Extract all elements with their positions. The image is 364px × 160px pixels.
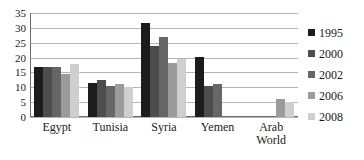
- bar-group-egypt: [30, 13, 84, 117]
- bar-2006-egypt: [61, 74, 70, 117]
- bar-2006-tunisia: [115, 84, 124, 117]
- x-tick-label-yemen: Yemen: [191, 121, 245, 147]
- bar-chart: 35302520151050 EgyptTunisiaSyriaYemenAra…: [0, 0, 364, 160]
- y-tick-label-0: 0: [0, 112, 26, 123]
- x-tick-label-line: Yemen: [191, 121, 245, 134]
- bar-1995-egypt: [34, 67, 43, 118]
- x-tick-label-line: Tunisia: [84, 121, 138, 134]
- y-tick-label-35: 35: [0, 8, 26, 19]
- x-tick-label-line: Syria: [137, 121, 191, 134]
- legend: 19952000200220062008: [308, 22, 364, 127]
- y-tick-label-20: 20: [0, 53, 26, 64]
- legend-item-1995[interactable]: 1995: [308, 22, 364, 43]
- bar-group-inner: [195, 13, 240, 117]
- bar-group-inner: [141, 13, 186, 117]
- bar-2002-syria: [159, 37, 168, 117]
- legend-swatch-icon: [308, 92, 315, 99]
- y-tick-label-5: 5: [0, 97, 26, 108]
- bar-2002-tunisia: [106, 86, 115, 117]
- legend-swatch-icon: [308, 50, 315, 57]
- bar-2008-arab-world: [285, 102, 294, 117]
- bar-2000-yemen: [204, 86, 213, 117]
- legend-label: 1995: [319, 27, 343, 39]
- legend-swatch-icon: [308, 71, 315, 78]
- x-axis-category-labels: EgyptTunisiaSyriaYemenArabWorld: [30, 121, 298, 147]
- legend-item-2000[interactable]: 2000: [308, 43, 364, 64]
- bar-2002-egypt: [52, 67, 61, 117]
- bar-group-tunisia: [84, 13, 138, 117]
- bar-2000-tunisia: [97, 80, 106, 117]
- legend-item-2002[interactable]: 2002: [308, 64, 364, 85]
- x-tick-label-line: World: [244, 134, 298, 147]
- bar-1995-tunisia: [88, 83, 97, 117]
- legend-swatch-icon: [308, 29, 315, 36]
- legend-label: 2000: [319, 48, 343, 60]
- legend-item-2006[interactable]: 2006: [308, 85, 364, 106]
- bar-group-arab-world: [244, 13, 298, 117]
- plot-area: [30, 13, 298, 117]
- bar-group-inner: [34, 13, 79, 117]
- bar-1995-yemen: [195, 57, 204, 117]
- x-tick-label-egypt: Egypt: [30, 121, 84, 147]
- legend-item-2008[interactable]: 2008: [308, 106, 364, 127]
- y-tick-label-25: 25: [0, 38, 26, 49]
- bar-2008-syria: [177, 59, 186, 117]
- x-tick-label-tunisia: Tunisia: [84, 121, 138, 147]
- x-tick-label-syria: Syria: [137, 121, 191, 147]
- bar-2008-tunisia: [124, 87, 133, 117]
- bar-2008-egypt: [70, 64, 79, 117]
- legend-label: 2008: [319, 111, 343, 123]
- legend-label: 2006: [319, 90, 343, 102]
- bar-group-yemen: [191, 13, 245, 117]
- y-tick-label-30: 30: [0, 23, 26, 34]
- bar-groups: [30, 13, 298, 117]
- legend-swatch-icon: [308, 113, 315, 120]
- bar-group-inner: [88, 13, 133, 117]
- bar-group-syria: [137, 13, 191, 117]
- bar-2000-egypt: [43, 67, 52, 118]
- legend-label: 2002: [319, 69, 343, 81]
- bar-2006-arab-world: [276, 99, 285, 117]
- bar-2002-yemen: [213, 84, 222, 117]
- bar-group-inner: [249, 13, 294, 117]
- bar-2006-syria: [168, 63, 177, 117]
- x-tick-label-line: Egypt: [30, 121, 84, 134]
- y-axis-tick-labels: 35302520151050: [0, 13, 26, 117]
- x-tick-label-arab-world: ArabWorld: [244, 121, 298, 147]
- bar-1995-syria: [141, 23, 150, 117]
- gridline-0: [30, 117, 298, 118]
- y-tick-label-10: 10: [0, 82, 26, 93]
- bar-2000-syria: [150, 46, 159, 117]
- y-tick-label-15: 15: [0, 67, 26, 78]
